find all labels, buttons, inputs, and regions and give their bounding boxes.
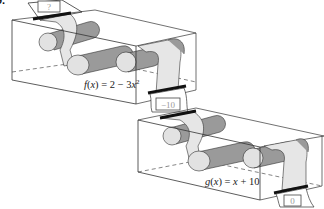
input-value-f: ? (47, 2, 51, 12)
function-label-g: g(x) = x + 10 (205, 176, 259, 188)
function-label-f: f(x) = 2 − 3x2 (84, 78, 140, 91)
machine-f: ? (12, 0, 196, 104)
output-value-g: 0 (290, 196, 295, 206)
output-value-f: −10 (161, 100, 176, 110)
machine-g: g(x) = x + 10 0 (138, 108, 324, 207)
function-machine-diagram: ? (0, 0, 324, 209)
